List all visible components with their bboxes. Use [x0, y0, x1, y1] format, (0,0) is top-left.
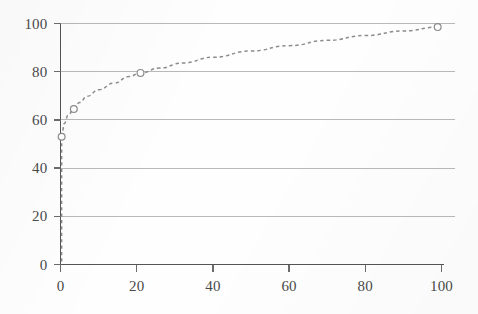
chart-plot-area	[0, 0, 478, 314]
x-tick-label: 100	[430, 279, 453, 294]
axis-lines	[55, 23, 444, 265]
x-tick-label: 20	[129, 279, 144, 294]
data-point-marker[interactable]	[58, 133, 65, 140]
x-tick-label: 40	[205, 279, 220, 294]
x-tick-label: 80	[358, 279, 373, 294]
data-point-marker[interactable]	[137, 70, 144, 77]
y-tick-label: 20	[4, 209, 48, 224]
y-tick-label: 40	[4, 161, 48, 176]
series-markers-0	[58, 24, 441, 140]
x-axis-ticks	[61, 265, 442, 272]
y-tick-label: 100	[4, 16, 48, 31]
y-tick-label: 80	[4, 64, 48, 79]
y-axis-ticks	[54, 24, 61, 265]
x-tick-label: 0	[57, 279, 65, 294]
data-point-marker[interactable]	[434, 24, 441, 31]
gridlines	[61, 24, 456, 217]
y-tick-label: 0	[4, 257, 48, 272]
data-point-marker[interactable]	[70, 106, 77, 113]
x-tick-label: 60	[281, 279, 296, 294]
y-tick-label: 60	[4, 112, 48, 127]
chart-figure: 020406080100 020406080100	[0, 0, 478, 314]
